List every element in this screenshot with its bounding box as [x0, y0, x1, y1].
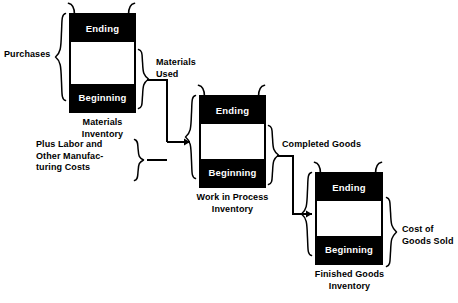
wip-input-brace	[184, 94, 198, 180]
wip-ending-band: Ending	[201, 97, 264, 124]
materials-used-line-1: Materials	[156, 57, 196, 69]
purchases-brace	[54, 12, 68, 102]
finished-goods-beginning-band: Beginning	[317, 236, 381, 263]
finished-goods-caption-line-2: Inventory	[302, 281, 397, 293]
wip-caption-line-2: Inventory	[186, 204, 279, 216]
plus-labor-line-2: Other Manufac-	[36, 151, 131, 163]
purchases-label: Purchases	[4, 49, 50, 61]
materials-middle-area	[71, 42, 134, 84]
cost-of-goods-sold-brace	[384, 196, 398, 268]
materials-used-line-2: Used	[156, 69, 196, 81]
finished-goods-inventory-box: Ending Beginning	[315, 172, 383, 265]
finished-goods-ending-band: Ending	[317, 174, 381, 201]
manufacturing-cost-flow-diagram: Ending Beginning Materials Inventory Pur…	[0, 0, 458, 303]
wip-middle-area	[201, 124, 264, 159]
cost-of-goods-sold-label: Cost of Goods Sold	[402, 224, 454, 247]
finished-goods-caption: Finished Goods Inventory	[302, 269, 397, 292]
work-in-process-caption: Work in Process Inventory	[186, 192, 279, 215]
finished-goods-caption-line-1: Finished Goods	[302, 269, 397, 281]
plus-labor-line-1: Plus Labor and	[36, 139, 131, 151]
materials-to-wip-connector	[146, 72, 206, 168]
materials-used-brace	[136, 48, 150, 110]
materials-inventory-caption: Materials Inventory	[56, 117, 149, 140]
plus-labor-brace	[132, 138, 145, 182]
work-in-process-inventory-box: Ending Beginning	[199, 95, 266, 188]
wip-beginning-band: Beginning	[201, 159, 264, 186]
plus-labor-line-3: turing Costs	[36, 162, 131, 174]
materials-used-label: Materials Used	[156, 57, 196, 80]
plus-labor-label: Plus Labor and Other Manufac- turing Cos…	[36, 139, 131, 174]
finished-goods-input-brace	[300, 171, 314, 257]
cost-of-goods-sold-line-2: Goods Sold	[402, 236, 454, 248]
materials-ending-band: Ending	[71, 15, 134, 42]
completed-goods-label: Completed Goods	[282, 139, 361, 151]
materials-inventory-box: Ending Beginning	[69, 13, 136, 113]
finished-goods-middle-area	[317, 201, 381, 236]
cost-of-goods-sold-line-1: Cost of	[402, 224, 454, 236]
completed-goods-brace	[266, 124, 280, 186]
materials-caption-line-1: Materials	[56, 117, 149, 129]
wip-caption-line-1: Work in Process	[186, 192, 279, 204]
materials-beginning-band: Beginning	[71, 84, 134, 111]
